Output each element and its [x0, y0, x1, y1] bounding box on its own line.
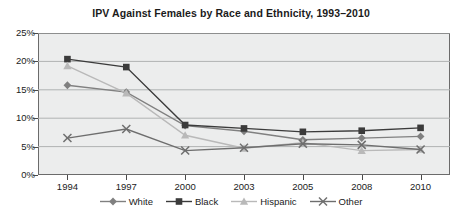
legend-marker-diamond-icon	[100, 196, 126, 207]
x-axis-tick-label: 1997	[103, 181, 149, 192]
legend-label: Hispanic	[260, 196, 296, 207]
legend-label: White	[129, 196, 153, 207]
x-axis-tick-label: 1994	[44, 181, 90, 192]
x-axis-tick-label: 2000	[162, 181, 208, 192]
data-series	[64, 56, 424, 135]
data-series	[64, 81, 425, 143]
y-axis-tick-label: 5%	[3, 141, 35, 152]
legend-label: Other	[339, 196, 363, 207]
chart-legend: WhiteBlackHispanicOther	[0, 196, 462, 207]
series-marker	[417, 132, 425, 140]
series-marker	[358, 134, 366, 142]
legend-item-hispanic[interactable]: Hispanic	[231, 196, 296, 207]
series-marker	[241, 125, 248, 132]
series-marker	[64, 56, 71, 63]
series-marker	[182, 122, 189, 129]
y-axis-tick-label: 20%	[3, 55, 35, 66]
x-axis-tick-mark	[244, 175, 245, 180]
legend-label: Black	[195, 196, 218, 207]
chart-screenshot: IPV Against Females by Race and Ethnicit…	[0, 0, 462, 221]
x-axis-tick-mark	[303, 175, 304, 180]
x-axis-tick-label: 2010	[398, 181, 444, 192]
x-axis-tick-mark	[126, 175, 127, 180]
y-axis-tick-label: 15%	[3, 84, 35, 95]
series-marker	[181, 131, 189, 138]
legend-marker-cross-icon	[310, 196, 336, 207]
legend-item-black[interactable]: Black	[166, 196, 218, 207]
chart-title: IPV Against Females by Race and Ethnicit…	[0, 7, 462, 19]
x-axis-tick-label: 2005	[280, 181, 326, 192]
legend-marker-triangle-icon	[231, 196, 257, 207]
series-marker	[123, 64, 130, 71]
series-line	[67, 59, 420, 132]
series-marker	[300, 129, 307, 136]
x-axis-tick-mark	[362, 175, 363, 180]
series-marker	[358, 127, 365, 134]
x-axis-tick-label: 2008	[339, 181, 385, 192]
legend-item-white[interactable]: White	[100, 196, 153, 207]
x-axis-tick-mark	[185, 175, 186, 180]
series-marker	[63, 62, 71, 69]
legend-item-other[interactable]: Other	[310, 196, 363, 207]
y-axis-tick-mark	[33, 175, 38, 176]
data-series	[63, 62, 424, 154]
data-series-group	[63, 56, 424, 155]
chart-plot-svg	[38, 33, 450, 175]
x-axis-tick-label: 2003	[221, 181, 267, 192]
y-axis-tick-label: 0%	[3, 169, 35, 180]
y-axis-tick-label: 25%	[3, 27, 35, 38]
legend-marker-square-icon	[166, 196, 192, 207]
x-axis-tick-mark	[67, 175, 68, 180]
series-marker	[417, 125, 424, 132]
y-axis-tick-label: 10%	[3, 112, 35, 123]
x-axis-tick-mark	[421, 175, 422, 180]
series-marker	[64, 81, 72, 89]
